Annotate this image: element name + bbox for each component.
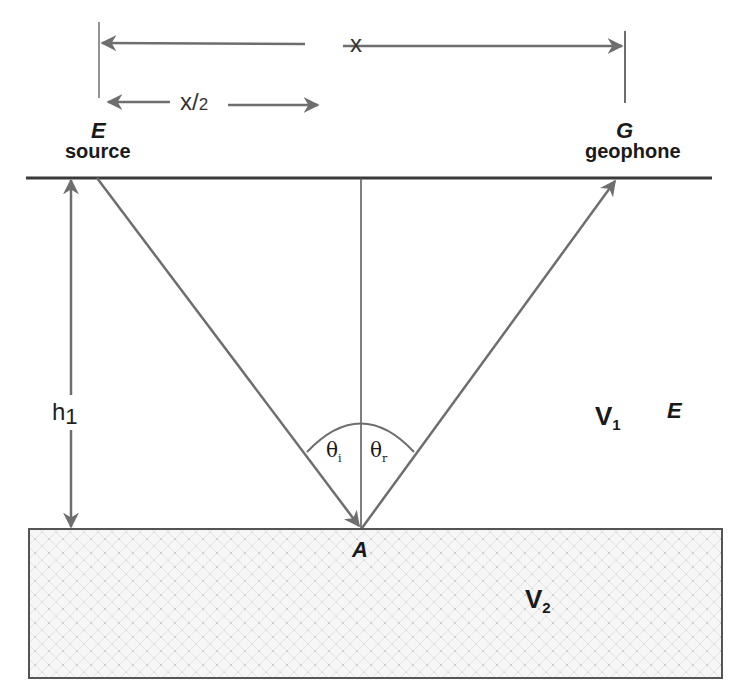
incident-ray bbox=[97, 178, 359, 526]
upper-velocity-label: V1 bbox=[595, 401, 621, 433]
lower-layer bbox=[29, 529, 722, 678]
half-offset-label: x/2 bbox=[180, 88, 208, 116]
offset-label: x bbox=[350, 30, 362, 58]
lower-velocity-label: V2 bbox=[525, 584, 551, 616]
offset-arrow-left bbox=[102, 43, 305, 44]
reflection-angle-label: θr bbox=[370, 438, 387, 465]
reflected-ray bbox=[362, 181, 615, 528]
incidence-angle-label: θi bbox=[326, 438, 342, 465]
geophone-label: geophone bbox=[585, 140, 681, 163]
reflection-diagram bbox=[0, 0, 741, 699]
depth-label: h1 bbox=[52, 398, 78, 430]
upper-layer-e-label: E bbox=[667, 398, 682, 424]
reflection-point-label: A bbox=[352, 537, 368, 563]
source-label: source bbox=[65, 140, 131, 163]
